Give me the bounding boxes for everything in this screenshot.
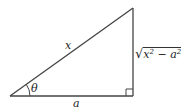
opposite-label: √x2 − a2 (135, 47, 181, 60)
radicand: x2 − a2 (143, 47, 181, 61)
right-angle-marker (126, 89, 133, 96)
angle-arc (26, 84, 30, 96)
hypotenuse-line (10, 8, 133, 96)
adjacent-label: a (73, 98, 80, 109)
angle-label: θ (31, 83, 38, 94)
hypotenuse-label: x (65, 40, 71, 51)
